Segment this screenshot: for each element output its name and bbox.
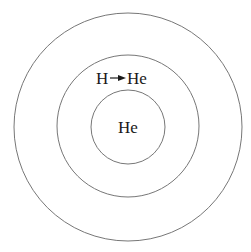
arrow-right-icon	[110, 75, 126, 81]
reaction-from-label: H	[96, 69, 108, 88]
stellar-shells-diagram: H He He	[0, 0, 251, 252]
core-label: He	[118, 118, 138, 137]
reaction-to-label: He	[127, 69, 147, 88]
